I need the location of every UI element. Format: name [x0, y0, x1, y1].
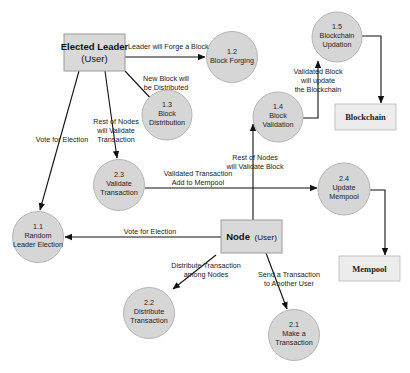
label-distribute-block-1: New Block will [143, 74, 189, 83]
label-validated-tx-1: Validated Transaction [164, 169, 233, 178]
label-validate-tx-2: will Validate [96, 126, 134, 135]
data-flow-diagram: Elected Leader (User) Node (User) Blockc… [0, 0, 410, 373]
label-validated-tx-2: Add to Mempool [172, 178, 225, 187]
label-validate-block-2: will Validate Block [226, 162, 284, 171]
process-1-1-random-leader-election: 1.1 Random Leader Election [13, 212, 64, 263]
flow-update-to-mempool [370, 190, 385, 255]
process-2-3-validate-transaction: 2.3 Validate Transaction [94, 160, 145, 211]
svg-text:Validate: Validate [106, 179, 131, 188]
svg-text:Update: Update [332, 183, 355, 192]
label-validate-tx-3: Transaction [97, 135, 134, 144]
svg-text:Blockchain: Blockchain [320, 31, 355, 40]
label-validated-block-3: the Blockchain [295, 85, 342, 94]
svg-text:Make a: Make a [282, 329, 306, 338]
process-1-3-block-distribution: 1.3 Block Distribution [142, 90, 192, 140]
entity-subtitle: (User) [81, 53, 107, 64]
entity-node: Node (User) [221, 220, 282, 253]
entity-title: Elected Leader [61, 41, 129, 52]
process-1-2-block-forging: 1.2 Block Forging [207, 32, 258, 83]
svg-text:Distribution: Distribution [149, 118, 185, 127]
svg-text:1.3: 1.3 [162, 100, 172, 109]
store-blockchain: Blockchain [335, 104, 396, 130]
label-validate-block-1: Rest of Nodes [232, 153, 278, 162]
svg-text:Leader Election: Leader Election [13, 240, 63, 249]
label-vote-node: Vote for Election [124, 227, 176, 236]
svg-text:Transaction: Transaction [100, 188, 137, 197]
label-forge: Leader will Forge a Block [128, 42, 209, 51]
entity-elected-leader: Elected Leader (User) [61, 34, 129, 71]
svg-text:Block: Block [158, 109, 176, 118]
svg-text:Node (User): Node (User) [226, 231, 277, 242]
svg-text:1.2: 1.2 [227, 47, 237, 56]
svg-text:1.5: 1.5 [332, 22, 342, 31]
svg-text:2.4: 2.4 [339, 174, 349, 183]
label-validated-block-2: will update [300, 76, 335, 85]
label-distribute-block-2: be Distributed [144, 83, 188, 92]
label-vote-leader: Vote for Election [36, 135, 88, 144]
process-1-5-blockchain-updation: 1.5 Blockchain Updation [312, 12, 362, 62]
label-distribute-tx-2: among Nodes [184, 270, 229, 279]
svg-text:Validation: Validation [262, 120, 293, 129]
svg-text:Block Forging: Block Forging [210, 56, 254, 65]
svg-text:Transaction: Transaction [275, 338, 312, 347]
label-send-tx-1: Send a Transaction [258, 270, 320, 279]
svg-text:2.2: 2.2 [144, 298, 154, 307]
svg-text:1.4: 1.4 [273, 102, 283, 111]
label-validated-block-1: Validated Block [293, 67, 342, 76]
svg-text:2.1: 2.1 [289, 320, 299, 329]
flow-labels: Leader will Forge a Block New Block will… [36, 42, 343, 288]
label-validate-tx-1: Rest of Nodes [93, 117, 139, 126]
label-distribute-tx-1: Distribute Transaction [171, 261, 241, 270]
svg-text:Random: Random [24, 231, 51, 240]
label-send-tx-2: to Another User [264, 279, 315, 288]
flow-leader-to-validate-tx [105, 71, 117, 158]
entity-title: Node [226, 231, 250, 242]
process-1-4-block-validation: 1.4 Block Validation [253, 92, 303, 142]
store-label: Blockchain [345, 112, 386, 122]
process-2-2-distribute-transaction: 2.2 Distribute Transaction [124, 288, 175, 339]
svg-text:Transaction: Transaction [130, 316, 167, 325]
svg-text:1.1: 1.1 [33, 222, 43, 231]
svg-text:Block: Block [269, 111, 287, 120]
svg-text:Mempool: Mempool [329, 192, 359, 201]
store-label: Mempool [352, 264, 387, 274]
svg-text:Updation: Updation [323, 40, 352, 49]
process-2-4-update-mempool: 2.4 Update Mempool [318, 163, 370, 215]
entity-subtitle: (User) [255, 233, 278, 242]
svg-text:Distribute: Distribute [134, 307, 164, 316]
process-2-1-make-transaction: 2.1 Make a Transaction [269, 310, 320, 361]
flow-updation-to-blockchain [362, 36, 381, 103]
svg-text:2.3: 2.3 [114, 170, 124, 179]
store-mempool: Mempool [339, 256, 400, 281]
